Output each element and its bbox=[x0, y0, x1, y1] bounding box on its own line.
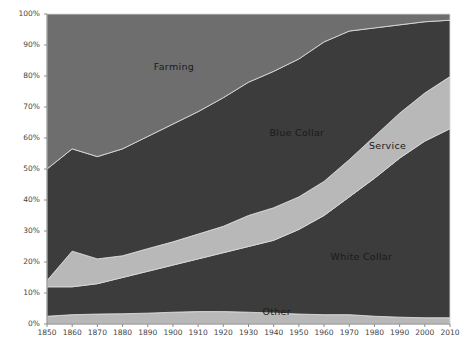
y-tick-label: 30% bbox=[8, 227, 40, 235]
occupation-share-area-chart: 0%10%20%30%40%50%60%70%80%90%100% 185018… bbox=[0, 0, 465, 362]
band-label-white-collar: White Collar bbox=[330, 251, 392, 262]
y-tick-label: 60% bbox=[8, 134, 40, 142]
y-tick-label: 100% bbox=[8, 10, 40, 18]
y-tick-label: 40% bbox=[8, 196, 40, 204]
band-label-other: Other bbox=[262, 306, 290, 317]
band-label-farming: Farming bbox=[154, 61, 194, 72]
y-tick-label: 80% bbox=[8, 72, 40, 80]
y-tick-label: 10% bbox=[8, 289, 40, 297]
x-tick-label: 2010 bbox=[435, 329, 465, 337]
stacked-areas-group bbox=[47, 14, 450, 324]
y-tick-label: 50% bbox=[8, 165, 40, 173]
y-tick-label: 70% bbox=[8, 103, 40, 111]
band-label-blue-collar: Blue Collar bbox=[269, 127, 324, 138]
y-tick-label: 90% bbox=[8, 41, 40, 49]
y-tick-label: 0% bbox=[8, 320, 40, 328]
chart-plot-area bbox=[0, 0, 465, 362]
band-label-service: Service bbox=[369, 140, 406, 151]
y-tick-label: 20% bbox=[8, 258, 40, 266]
